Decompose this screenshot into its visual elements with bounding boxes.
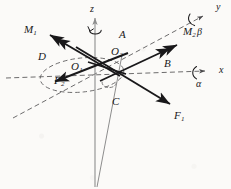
point-label-o2: O2 [111,46,123,59]
m1-second-arrowhead [56,38,62,42]
angle-label-alpha: α [196,79,201,89]
x-axis-line [6,71,205,78]
label-B: B [164,58,171,69]
point-label-o2-text: O [111,45,119,57]
label-A: A [119,29,126,40]
force-label-f2-subscript: 2 [61,80,65,88]
moment-label-m2: M2 [183,26,196,39]
point-label-o1-subscript: 1 [79,66,83,74]
force-label-f1: F1 [174,110,184,123]
force-label-f1-text: F [174,109,181,121]
axis-label-y: y [216,2,220,12]
force-label-f1-subscript: 1 [181,115,185,123]
label-D: D [38,51,46,62]
moment-label-m1-subscript: 1 [33,29,37,37]
force-label-f2: F2 [54,75,64,88]
point-label-o1: O1 [71,61,83,74]
moment-label-m2-subscript: 2 [192,31,196,39]
moment-label-m1-text: M [24,23,33,35]
mechanics-figure: y x z β α M1 M2 F1 F2 O1 O2 A B C D [0,0,231,189]
z-rotation-arrowhead [88,27,93,32]
axis-label-x: x [219,65,223,75]
beta-rotation-arc [189,14,195,26]
label-C: C [112,96,119,107]
force-label-f2-text: F [54,74,61,86]
point-label-o2-subscript: 2 [119,51,123,59]
rotation-arc-group [88,14,197,88]
angle-label-beta: β [197,27,202,37]
moment-label-m1: M1 [24,24,37,37]
moment-label-m2-text: M [183,25,192,37]
axis-label-z: z [90,4,94,14]
point-label-o1-text: O [71,60,79,72]
m2-second-arrowhead [163,48,170,51]
axis-group [6,16,205,187]
